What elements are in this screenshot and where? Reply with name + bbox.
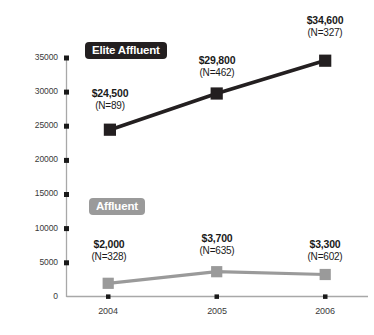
plot-area [0,0,374,335]
y-tick-label-5000: 5000 [14,257,58,267]
y-tick-label-25000: 25000 [14,120,58,130]
elite-marker-2005 [211,87,223,99]
affluent-n-2005: (N=635) [172,245,262,257]
elite-marker-2006 [319,55,331,67]
y-tick-dot [64,226,69,231]
elite-n-2005: (N=462) [172,67,262,79]
affluent-point-label-2005: $3,700 (N=635) [172,232,262,257]
y-tick-label-0: 0 [14,291,58,301]
affluent-n-2004: (N=328) [64,251,154,263]
legend-badge-affluent: Affluent [89,198,145,215]
y-tick-label-20000: 20000 [14,154,58,164]
y-tick-dot [64,158,69,163]
y-tick-dot [64,56,69,61]
x-tick-label-2004: 2004 [83,306,133,316]
affluent-point-label-2006: $3,300 (N=602) [280,238,370,263]
elite-point-label-2004: $24,500 (N=89) [65,87,155,112]
x-tick-dot [106,294,111,299]
elite-n-2006: (N=327) [280,27,370,39]
y-tick-label-35000: 35000 [14,52,58,62]
x-tick-dot [215,294,220,299]
x-tick-label-2006: 2006 [300,306,350,316]
elite-point-label-2006: $34,600 (N=327) [280,14,370,39]
y-tick-label-15000: 15000 [14,188,58,198]
elite-marker-2004 [104,124,116,136]
elite-value-2005: $29,800 [172,54,262,67]
elite-value-2004: $24,500 [65,87,155,100]
affluent-marker-2004 [103,278,114,289]
x-tick-dot [323,294,328,299]
affluent-value-2004: $2,000 [64,238,154,251]
y-tick-dot [64,192,69,197]
elite-point-label-2005: $29,800 (N=462) [172,54,262,79]
series-line-affluent [103,266,331,289]
affluent-point-label-2004: $2,000 (N=328) [64,238,154,263]
x-tick-label-2005: 2005 [192,306,242,316]
affluent-marker-2006 [320,269,331,280]
y-tick-dot [64,124,69,129]
affluent-n-2006: (N=602) [280,251,370,263]
affluent-value-2006: $3,300 [280,238,370,251]
elite-value-2006: $34,600 [280,14,370,27]
affluent-value-2005: $3,700 [172,232,262,245]
elite-n-2004: (N=89) [65,100,155,112]
legend-badge-elite-affluent: Elite Affluent [85,42,167,59]
y-tick-label-30000: 30000 [14,86,58,96]
affluent-marker-2005 [211,266,222,277]
line-chart: 35000 30000 25000 20000 15000 10000 5000… [0,0,374,335]
y-tick-label-10000: 10000 [14,223,58,233]
